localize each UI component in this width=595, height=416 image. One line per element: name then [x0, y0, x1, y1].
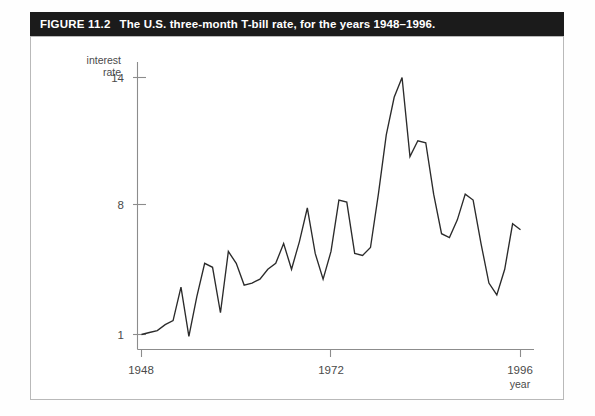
x-axis-ticks: 1948 1972 1996 — [128, 350, 533, 377]
tbill-rate-series — [142, 78, 521, 337]
y-tick-label-8: 8 — [118, 199, 124, 211]
x-axis-title: year — [510, 378, 531, 390]
y-axis-ticks: 14 8 1 — [111, 72, 146, 341]
x-tick-label-1996: 1996 — [507, 364, 533, 376]
x-tick-label-1948: 1948 — [128, 364, 154, 376]
axis-titles: interest rate year — [87, 54, 531, 390]
line-chart: 14 8 1 1948 1972 1996 interest rate year — [0, 0, 595, 416]
y-axis-title-line2: rate — [103, 66, 121, 78]
figure-container: FIGURE 11.2 The U.S. three-month T-bill … — [0, 0, 595, 416]
x-tick-label-1972: 1972 — [318, 364, 344, 376]
y-axis-title-line1: interest — [87, 54, 122, 66]
y-tick-label-1: 1 — [118, 329, 124, 341]
